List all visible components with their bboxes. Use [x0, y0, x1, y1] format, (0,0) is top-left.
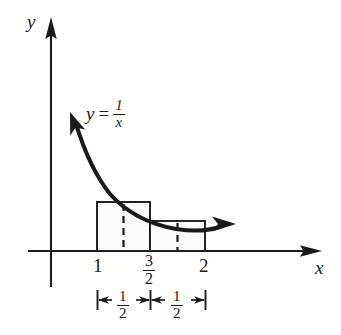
curve-equation-lhs: y — [86, 103, 94, 124]
dimension-denominator-2: 2 — [171, 306, 183, 322]
dimension-denominator-1: 2 — [117, 306, 129, 322]
curve-equation-label: y=1x — [86, 98, 125, 131]
dimension-fraction-1: 12 — [117, 289, 129, 322]
x-tick-label-three-halves: 32 — [143, 253, 155, 288]
x-tick-denominator-2: 2 — [143, 271, 155, 288]
x-tick-label-2: 2 — [199, 256, 209, 275]
dimension-fraction-2: 12 — [171, 289, 183, 322]
dimension-label-2: 12 — [171, 289, 183, 322]
dimension-numerator-2: 1 — [171, 289, 183, 306]
curve-equation-equals: = — [98, 103, 109, 124]
diagram-svg — [0, 0, 341, 335]
curve-equation-numerator: 1 — [113, 98, 125, 115]
dimension-label-1: 12 — [117, 289, 129, 322]
y-axis-label: y — [27, 12, 35, 31]
x-axis-label: x — [315, 258, 323, 277]
curve-arrowhead-right — [212, 217, 236, 232]
curve-equation-denominator: x — [113, 115, 125, 131]
curve-equation-fraction: 1x — [113, 98, 125, 131]
rectangles-group — [97, 202, 205, 251]
dimension-numerator-1: 1 — [117, 289, 129, 306]
x-tick-numerator-3: 3 — [143, 253, 155, 271]
x-tick-fraction-three-halves: 32 — [143, 253, 155, 288]
dimension-lines-group — [98, 290, 206, 310]
figure-canvas: y x y=1x 1 32 2 12 12 — [0, 0, 341, 335]
x-tick-label-1: 1 — [93, 256, 103, 275]
